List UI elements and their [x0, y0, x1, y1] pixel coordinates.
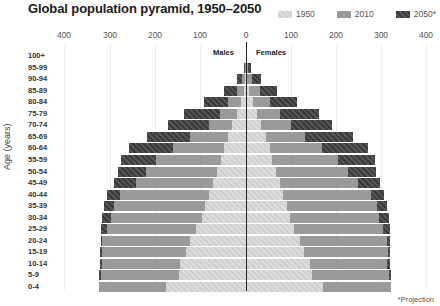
- gridline: [426, 45, 427, 290]
- bar-males-1950: [209, 190, 246, 200]
- bar-females-1950: [246, 270, 312, 280]
- age-group-label: 95-99: [28, 63, 47, 73]
- age-group-label: 15-19: [28, 247, 47, 257]
- bar-females-1950: [246, 236, 300, 246]
- bar-males-1950: [179, 270, 246, 280]
- x-tick: 400: [419, 30, 433, 40]
- x-tick: 200: [329, 30, 343, 40]
- legend-swatch-2010: [337, 11, 351, 18]
- bar-males-1950: [213, 178, 246, 188]
- x-tick: 300: [103, 30, 117, 40]
- age-group-label: 35-39: [28, 201, 47, 211]
- bar-females-1950: [246, 155, 272, 165]
- bar-males-1950: [186, 247, 246, 257]
- legend-label-2010: 2010: [355, 9, 374, 19]
- bar-females-1950: [246, 190, 283, 200]
- age-group-label: 90-94: [28, 74, 47, 84]
- gridline: [64, 45, 65, 290]
- age-group-label: 70-74: [28, 120, 47, 130]
- x-tick: 300: [374, 30, 388, 40]
- bar-males-1950: [221, 155, 246, 165]
- x-tick: 100: [284, 30, 298, 40]
- age-group-label: 100+: [28, 51, 45, 61]
- y-axis-label: Age (years): [2, 123, 12, 170]
- bar-females-1950: [246, 143, 270, 153]
- females-label: Females: [256, 48, 286, 57]
- bar-males-1950: [190, 236, 246, 246]
- age-group-label: 25-29: [28, 224, 47, 234]
- males-label: Males: [213, 48, 234, 57]
- age-group-label: 30-34: [28, 213, 47, 223]
- age-group-label: 85-89: [28, 86, 47, 96]
- age-group-label: 10-14: [28, 259, 47, 269]
- x-tick: 100: [193, 30, 207, 40]
- age-group-label: 20-24: [28, 236, 47, 246]
- bar-males-1950: [196, 224, 246, 234]
- bar-females-1950: [246, 167, 276, 177]
- bar-males-1950: [232, 120, 246, 130]
- footnote: *Projection: [398, 295, 434, 304]
- age-group-label: 80-84: [28, 97, 47, 107]
- chart-title: Global population pyramid, 1950–2050: [28, 1, 261, 16]
- legend-item-2050: 2050*: [396, 9, 436, 19]
- age-group-label: 0-4: [28, 282, 39, 292]
- age-group-label: 45-49: [28, 178, 47, 188]
- age-group-label: 65-69: [28, 132, 47, 142]
- bar-females-1950: [246, 224, 294, 234]
- bar-males-1950: [237, 109, 246, 119]
- bar-males-1950: [228, 132, 246, 142]
- bar-females-1950: [246, 213, 290, 223]
- x-axis: 400 300 200 100 0 100 200 300 400: [0, 30, 440, 42]
- bar-males-1950: [224, 143, 246, 153]
- age-group-label: 5-9: [28, 270, 39, 280]
- bar-females-1950: [246, 178, 280, 188]
- bar-males-1950: [205, 201, 246, 211]
- x-tick: 400: [57, 30, 71, 40]
- age-group-label: 50-54: [28, 167, 47, 177]
- bar-males-1950: [180, 259, 246, 269]
- legend-item-2010: 2010: [337, 9, 374, 19]
- bar-females-1950: [246, 132, 266, 142]
- bar-males-1950: [166, 282, 246, 292]
- bar-males-1950: [202, 213, 246, 223]
- legend-label-2050: 2050*: [414, 9, 436, 19]
- age-group-label: 75-79: [28, 109, 47, 119]
- bar-females-1950: [246, 282, 323, 292]
- bar-females-1950: [246, 201, 287, 211]
- bar-females-1950: [246, 120, 261, 130]
- age-group-label: 60-64: [28, 143, 47, 153]
- legend-swatch-2050: [396, 11, 410, 18]
- legend-swatch-1950: [278, 11, 292, 18]
- legend-label-1950: 1950: [296, 9, 315, 19]
- x-tick: 200: [148, 30, 162, 40]
- x-tick: 0: [244, 30, 249, 40]
- legend-item-1950: 1950: [278, 9, 315, 19]
- age-group-label: 55-59: [28, 155, 47, 165]
- bar-females-1950: [246, 259, 310, 269]
- age-group-label: 40-44: [28, 190, 47, 200]
- bar-females-1950: [246, 109, 257, 119]
- bar-females-1950: [246, 247, 304, 257]
- bar-males-1950: [217, 167, 246, 177]
- center-axis-line: [246, 42, 247, 291]
- legend: 1950 2010 2050*: [278, 9, 436, 19]
